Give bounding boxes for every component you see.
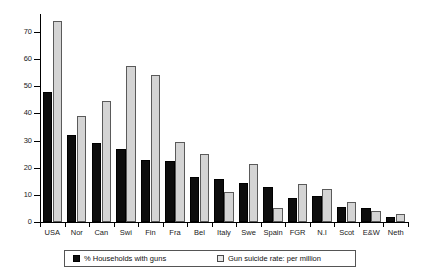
bar-gun-suicide-rate [53,21,62,222]
x-axis-tick [114,222,115,227]
x-axis-tick [138,222,139,227]
bar-group [65,14,90,222]
x-axis-label: FGR [285,228,310,237]
x-axis-label: N.I [310,228,335,237]
y-axis-tick-label: 20 [24,164,32,172]
y-axis-tick [34,141,40,142]
bar-gun-suicide-rate [102,101,111,222]
bar-group [187,14,212,222]
bar-households-guns [92,143,101,222]
y-axis-tick-label: 50 [24,82,32,90]
bar-gun-suicide-rate [347,202,356,222]
x-axis-label: Italy [212,228,237,237]
x-axis-tick [285,222,286,227]
x-axis-tick [163,222,164,227]
y-axis-tick [34,168,40,169]
x-axis-tick [212,222,213,227]
y-axis-tick [34,195,40,196]
bar-households-guns [67,135,76,222]
x-axis-label: Neth [383,228,408,237]
bar-gun-suicide-rate [249,164,258,222]
x-axis-tick [65,222,66,227]
legend-label-households: % Households with guns [84,254,166,263]
chart-legend: % Households with guns Gun suicide rate:… [64,250,356,267]
x-axis-tick [408,222,409,227]
y-axis-tick-label: 60 [24,55,32,63]
bar-group [163,14,188,222]
x-axis-tick [334,222,335,227]
x-axis-tick [40,222,41,227]
y-axis-tick [34,59,40,60]
bar-households-guns [43,92,52,222]
legend-item-households: % Households with guns [73,254,166,263]
bar-group [310,14,335,222]
bar-households-guns [141,160,150,222]
x-axis-label: E&W [359,228,384,237]
bar-chart: 010203040506070 % Households with guns G… [0,0,422,277]
x-axis-label: Bel [187,228,212,237]
x-axis-tick [261,222,262,227]
bar-households-guns [288,198,297,222]
bar-gun-suicide-rate [396,214,405,222]
bar-gun-suicide-rate [77,116,86,222]
bar-group [359,14,384,222]
y-axis-tick-label: 30 [24,137,32,145]
bar-households-guns [312,196,321,222]
bar-gun-suicide-rate [126,66,135,222]
x-axis-label: Swe [236,228,261,237]
bar-households-guns [386,217,395,222]
bar-gun-suicide-rate [273,208,282,222]
x-axis-label: Fin [138,228,163,237]
x-axis-tick [187,222,188,227]
x-axis-label: Scot [334,228,359,237]
bar-households-guns [165,161,174,222]
bar-households-guns [214,179,223,222]
bar-households-guns [263,187,272,222]
bar-gun-suicide-rate [322,189,331,222]
x-axis-label: Can [89,228,114,237]
bar-gun-suicide-rate [371,211,380,222]
bar-group [138,14,163,222]
y-axis-tick [34,32,40,33]
x-axis-label: Spain [261,228,286,237]
x-axis-label: Fra [163,228,188,237]
y-axis-tick-labels: 010203040506070 [0,0,32,277]
y-axis-tick-label: 10 [24,191,32,199]
bar-group [285,14,310,222]
bar-group [114,14,139,222]
legend-label-suicide-rate: Gun suicide rate: per million [228,254,321,263]
bars-container [40,14,408,222]
bar-gun-suicide-rate [298,184,307,222]
y-axis-tick [34,113,40,114]
x-axis-tick [89,222,90,227]
bar-gun-suicide-rate [151,75,160,222]
outlined-square-icon [217,255,224,262]
x-axis-label: Nor [65,228,90,237]
x-axis-tick [236,222,237,227]
legend-item-suicide-rate: Gun suicide rate: per million [217,254,321,263]
x-axis-label: Swi [114,228,139,237]
y-axis-tick-label: 70 [24,28,32,36]
bar-group [383,14,408,222]
bar-households-guns [190,177,199,222]
x-axis-label: USA [40,228,65,237]
bar-gun-suicide-rate [224,192,233,222]
bar-households-guns [239,183,248,222]
bar-group [89,14,114,222]
bar-group [236,14,261,222]
x-axis-tick [359,222,360,227]
y-axis-tick-label: 40 [24,109,32,117]
bar-gun-suicide-rate [200,154,209,222]
bar-group [261,14,286,222]
y-axis-tick [34,86,40,87]
bar-group [40,14,65,222]
x-axis-tick [310,222,311,227]
bar-households-guns [116,149,125,222]
x-axis-line [40,222,408,223]
y-axis-tick-label: 0 [28,218,32,226]
bar-gun-suicide-rate [175,142,184,222]
bar-households-guns [337,207,346,222]
x-axis-tick [383,222,384,227]
bar-group [334,14,359,222]
bar-group [212,14,237,222]
